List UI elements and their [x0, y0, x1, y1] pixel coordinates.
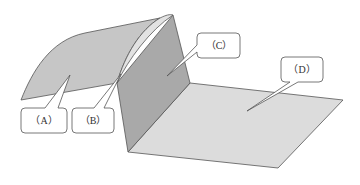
sheet-metal-diagram: （A） （B） （C） （D）	[0, 0, 360, 185]
callout-d-label: （D）	[288, 64, 315, 75]
callout-b-label: （B）	[80, 115, 107, 126]
callout-a-label: （A）	[30, 115, 57, 126]
callout-c-label: （C）	[206, 40, 233, 51]
